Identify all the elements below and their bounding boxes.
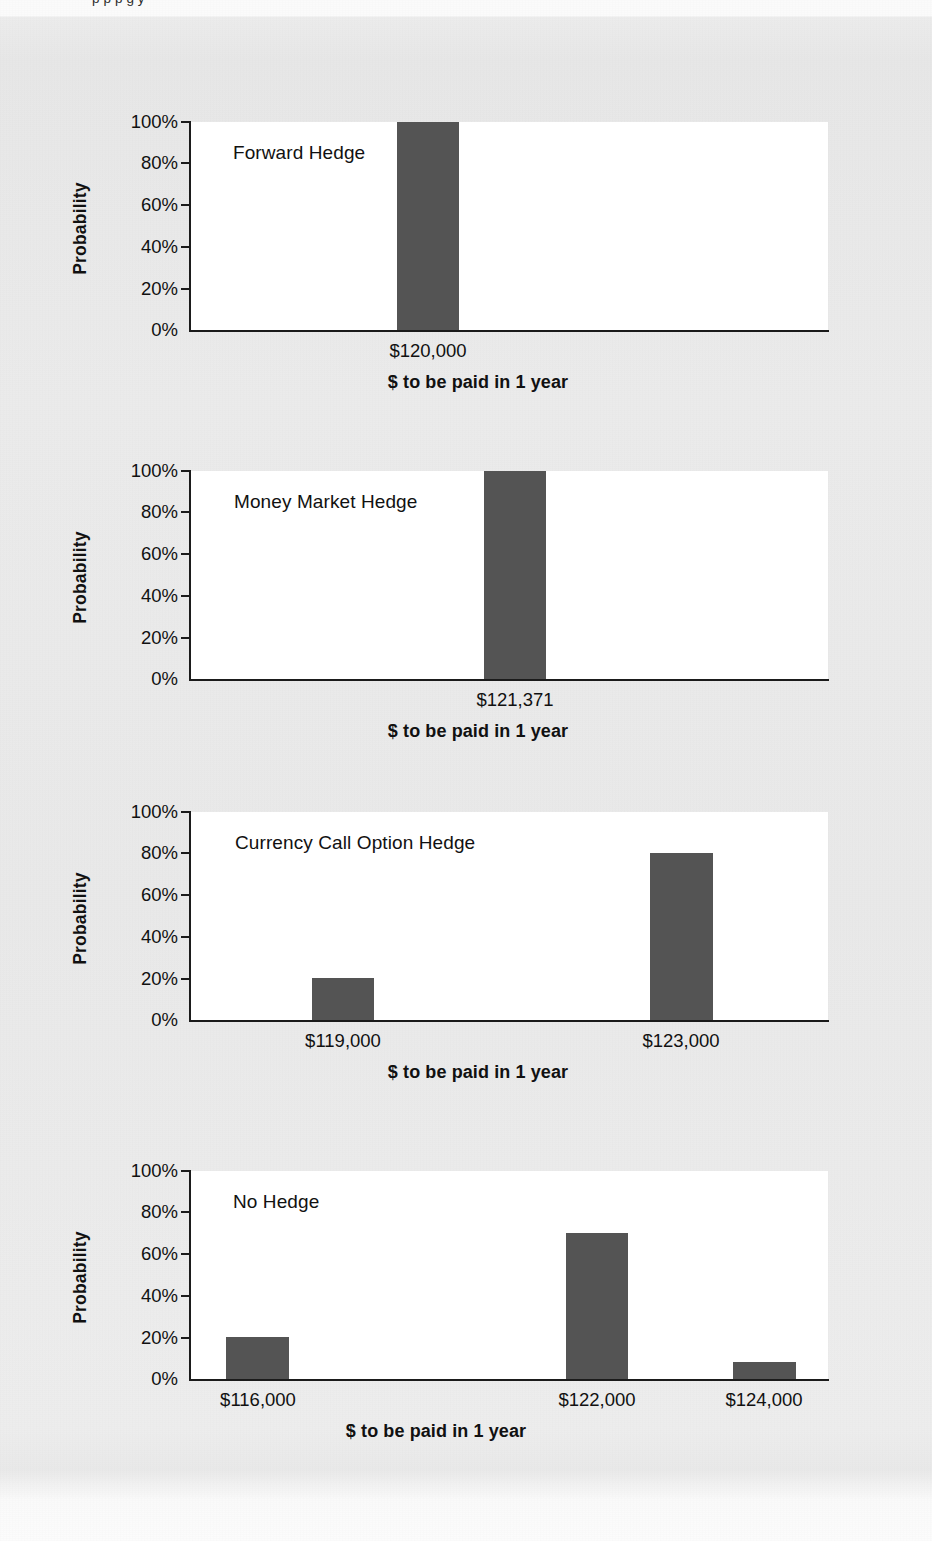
y-axis-line (189, 1170, 191, 1381)
bar (226, 1337, 289, 1379)
y-tick-mark (181, 511, 190, 513)
y-tick-mark (181, 1337, 190, 1339)
y-tick-mark (181, 852, 190, 854)
y-axis-line (189, 811, 191, 1022)
bar (566, 1233, 628, 1379)
y-tick-mark (181, 553, 190, 555)
x-axis-label: $ to be paid in 1 year (338, 721, 618, 742)
y-tick-mark (181, 894, 190, 896)
y-tick-mark (181, 978, 190, 980)
y-tick-mark (181, 637, 190, 639)
y-tick-label: 80% (116, 844, 178, 863)
x-axis-line (189, 1379, 829, 1381)
x-tick-label: $124,000 (694, 1391, 834, 1410)
y-tick-label: 80% (116, 1203, 178, 1222)
y-axis-label: Probability (70, 859, 91, 979)
y-tick-label: 80% (116, 503, 178, 522)
y-tick-mark (181, 1170, 190, 1172)
y-tick-label: 0% (116, 1011, 178, 1030)
y-tick-mark (181, 595, 190, 597)
y-tick-label: 40% (116, 1287, 178, 1306)
x-axis-label: $ to be paid in 1 year (296, 1421, 576, 1442)
y-tick-label: 100% (116, 1162, 178, 1181)
chart-no-hedge: 100% 80% 60% 40% 20% 0% Probability No H… (0, 0, 932, 420)
y-tick-mark (181, 811, 190, 813)
chart-title: No Hedge (233, 1191, 319, 1213)
bar (733, 1362, 796, 1379)
x-tick-label: $119,000 (273, 1032, 413, 1051)
y-tick-label: 0% (116, 1370, 178, 1389)
x-tick-label: $122,000 (527, 1391, 667, 1410)
x-axis-line (189, 1020, 829, 1022)
x-tick-label: $123,000 (611, 1032, 751, 1051)
y-tick-label: 100% (116, 803, 178, 822)
bar (484, 471, 546, 679)
document-page: p p p g y 100% 80% 60% 40% 20% 0% Probab… (0, 0, 932, 1541)
y-tick-label: 20% (116, 970, 178, 989)
x-axis-label: $ to be paid in 1 year (338, 1062, 618, 1083)
chart-title: Money Market Hedge (234, 491, 417, 513)
x-axis-line (189, 679, 829, 681)
y-tick-mark (181, 470, 190, 472)
y-tick-label: 60% (116, 1245, 178, 1264)
y-tick-label: 60% (116, 886, 178, 905)
y-tick-mark (181, 1211, 190, 1213)
y-tick-mark (181, 936, 190, 938)
y-tick-mark (181, 1253, 190, 1255)
y-tick-mark (181, 1295, 190, 1297)
y-tick-label: 100% (116, 462, 178, 481)
y-axis-label: Probability (70, 518, 91, 638)
y-tick-label: 40% (116, 587, 178, 606)
chart-title: Currency Call Option Hedge (235, 832, 475, 854)
y-axis-line (189, 470, 191, 681)
bar (312, 978, 374, 1020)
y-axis-label: Probability (70, 1218, 91, 1338)
y-tick-label: 40% (116, 928, 178, 947)
y-tick-label: 20% (116, 1329, 178, 1348)
x-tick-label: $121,371 (445, 691, 585, 710)
bar (650, 853, 713, 1020)
y-tick-label: 60% (116, 545, 178, 564)
y-tick-label: 20% (116, 629, 178, 648)
y-tick-label: 0% (116, 670, 178, 689)
x-tick-label: $116,000 (188, 1391, 328, 1410)
